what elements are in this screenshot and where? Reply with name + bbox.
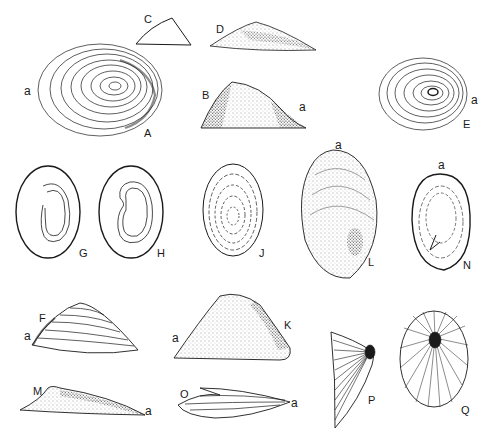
figure-n bbox=[412, 174, 470, 270]
label-q: Q bbox=[461, 405, 470, 416]
figure-g bbox=[16, 166, 80, 258]
label-l: L bbox=[368, 257, 374, 268]
label-e: E bbox=[463, 119, 470, 130]
label-n: N bbox=[463, 260, 471, 271]
label-a-anterior-a: a bbox=[24, 85, 31, 97]
label-f: F bbox=[39, 313, 46, 324]
label-o-anterior-a: a bbox=[291, 397, 298, 409]
label-m: M bbox=[33, 386, 42, 397]
figure-h bbox=[99, 166, 163, 258]
label-h: H bbox=[157, 248, 165, 259]
label-n-anterior-a: a bbox=[438, 159, 445, 171]
label-b-anterior-a: a bbox=[299, 101, 306, 113]
figure-p bbox=[331, 332, 375, 428]
label-c: C bbox=[144, 14, 152, 25]
label-p: P bbox=[368, 395, 375, 406]
figure-b bbox=[201, 82, 306, 128]
label-o: O bbox=[180, 389, 189, 400]
label-k-anterior-a: a bbox=[172, 332, 179, 344]
label-f-anterior-a: a bbox=[24, 330, 31, 342]
label-e-anterior-a: a bbox=[471, 94, 478, 106]
label-m-anterior-a: a bbox=[145, 405, 152, 417]
label-k: K bbox=[284, 320, 291, 331]
figure-j bbox=[203, 164, 263, 256]
label-b: B bbox=[202, 90, 209, 101]
figure-k bbox=[174, 294, 290, 360]
figure-e bbox=[379, 58, 467, 130]
figure-o bbox=[178, 388, 290, 418]
label-d: D bbox=[216, 24, 224, 35]
figure-f bbox=[32, 303, 138, 353]
figure-d bbox=[210, 22, 316, 51]
plate-drawings bbox=[0, 0, 492, 441]
label-g: G bbox=[79, 248, 88, 259]
figure-a bbox=[38, 44, 162, 136]
label-a: A bbox=[144, 128, 151, 139]
label-j: J bbox=[259, 248, 265, 259]
figure-q bbox=[400, 311, 468, 407]
label-l-anterior-a: a bbox=[335, 139, 342, 151]
figure-l bbox=[301, 150, 376, 278]
shell-illustration-plate: C D a A B a a E G H J a L a N F a K a M … bbox=[0, 0, 492, 441]
